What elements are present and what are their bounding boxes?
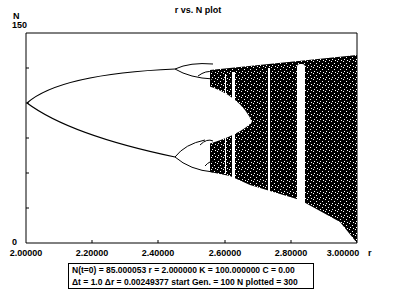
x-tick-label: 2.00000	[10, 248, 43, 258]
x-tick-label: 2.60000	[209, 248, 242, 258]
x-tick-label: 2.20000	[76, 248, 109, 258]
bifurcation-data	[27, 55, 357, 243]
x-tick-label: 3.00000	[327, 248, 360, 258]
x-axis-label: r	[368, 248, 372, 258]
info-line-1: N(t=0) = 85.000053 r = 2.000000 K = 100.…	[72, 265, 310, 277]
parameter-info-box: N(t=0) = 85.000053 r = 2.000000 K = 100.…	[68, 263, 314, 289]
info-line-2: Δt = 1.0 Δr = 0.00249377 start Gen. = 10…	[72, 277, 310, 289]
x-tick-label: 2.40000	[142, 248, 175, 258]
x-tick-label: 2.80000	[275, 248, 308, 258]
